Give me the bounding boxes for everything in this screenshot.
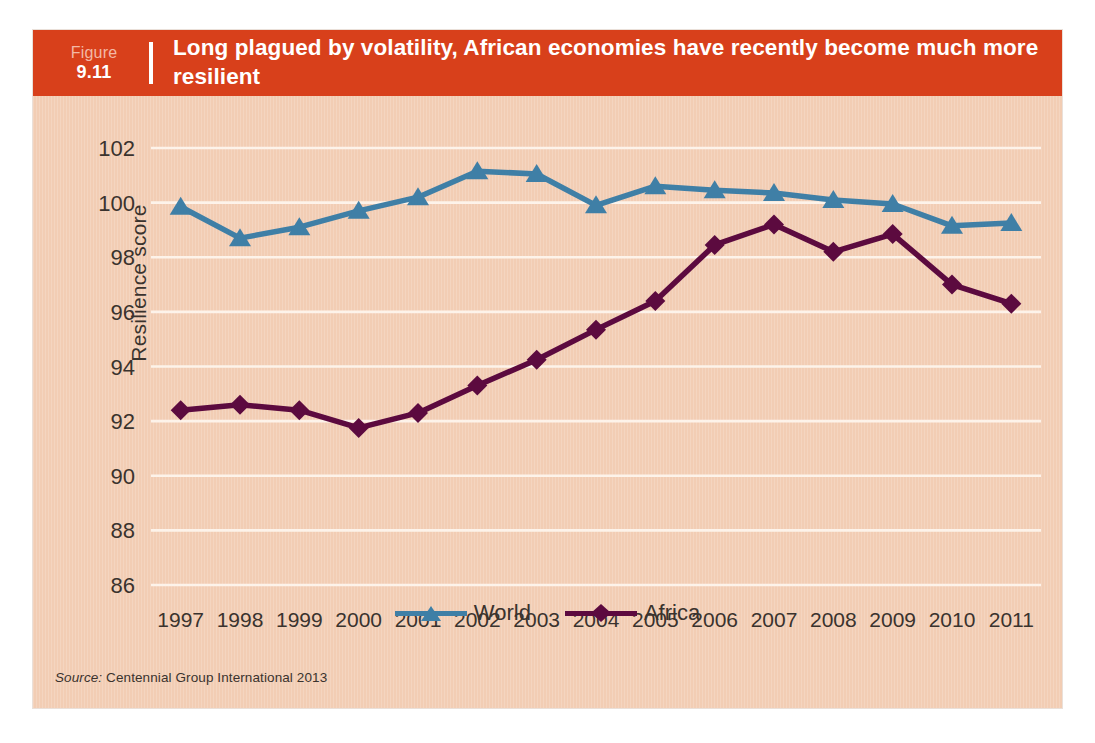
data-point-marker xyxy=(289,400,309,420)
data-point-marker xyxy=(586,320,606,340)
y-axis-tick: 92 xyxy=(111,409,135,434)
data-point-marker xyxy=(764,214,784,234)
figure-label-word: Figure xyxy=(39,44,149,62)
y-axis-tick: 102 xyxy=(98,136,135,161)
legend-item-world: World xyxy=(395,600,531,626)
figure-header: Figure 9.11 Long plagued by volatility, … xyxy=(33,30,1062,96)
chart-legend: World Africa xyxy=(33,600,1062,626)
y-axis-tick: 98 xyxy=(111,245,135,270)
y-axis-tick: 86 xyxy=(111,573,135,598)
legend-item-africa: Africa xyxy=(565,600,700,626)
legend-label-world: World xyxy=(474,600,531,626)
data-point-marker xyxy=(171,400,191,420)
source-note: Source: Centennial Group International 2… xyxy=(55,670,327,685)
source-prefix: Source: xyxy=(55,670,102,685)
header-divider xyxy=(149,42,153,84)
legend-swatch-world xyxy=(395,610,467,616)
y-axis-tick: 88 xyxy=(111,518,135,543)
diamond-marker-icon xyxy=(588,602,614,624)
source-text: Centennial Group International 2013 xyxy=(102,670,327,685)
data-point-marker xyxy=(823,242,843,262)
data-point-marker xyxy=(230,395,250,415)
legend-label-africa: Africa xyxy=(644,600,700,626)
figure-card: Figure 9.11 Long plagued by volatility, … xyxy=(33,30,1062,708)
y-axis-tick: 96 xyxy=(111,300,135,325)
data-point-marker xyxy=(170,197,192,215)
figure-number-block: Figure 9.11 xyxy=(33,44,149,82)
y-axis-tick: 100 xyxy=(98,191,135,216)
triangle-marker-icon xyxy=(418,603,444,623)
figure-number: 9.11 xyxy=(39,62,149,82)
y-axis-tick: 90 xyxy=(111,464,135,489)
legend-swatch-africa xyxy=(565,610,637,616)
y-axis-tick: 94 xyxy=(111,355,135,380)
figure-title: Long plagued by volatility, African econ… xyxy=(173,34,1062,92)
data-point-marker xyxy=(467,376,487,396)
